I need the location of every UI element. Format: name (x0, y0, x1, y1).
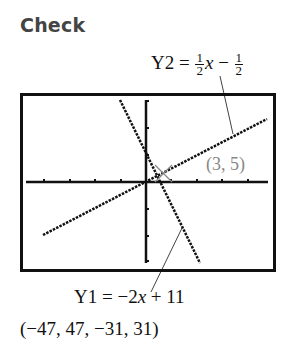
intersection-marker (155, 165, 172, 182)
intersection-label: (3, 5) (206, 154, 245, 175)
y2-leader-line (220, 76, 233, 134)
y2-line (43, 119, 267, 235)
variable-x: x (138, 286, 146, 307)
y1-lhs: Y1 = −2 (74, 286, 138, 307)
equation-y1: Y1 = −2x + 11 (74, 286, 185, 308)
viewing-window: (−47, 47, −31, 31) (20, 318, 159, 340)
y1-leader-line (151, 228, 182, 292)
y1-rhs: + 11 (146, 286, 185, 307)
